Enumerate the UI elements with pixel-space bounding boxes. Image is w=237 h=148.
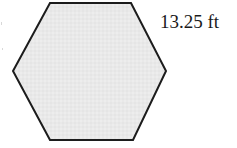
side-length-label: 13.25 ft: [160, 10, 236, 34]
geometry-figure: 13.25 ft: [0, 0, 237, 148]
scan-artifact-speck: [2, 48, 3, 50]
scan-artifact-speck: [1, 22, 2, 25]
hexagon-polygon: [13, 3, 166, 140]
